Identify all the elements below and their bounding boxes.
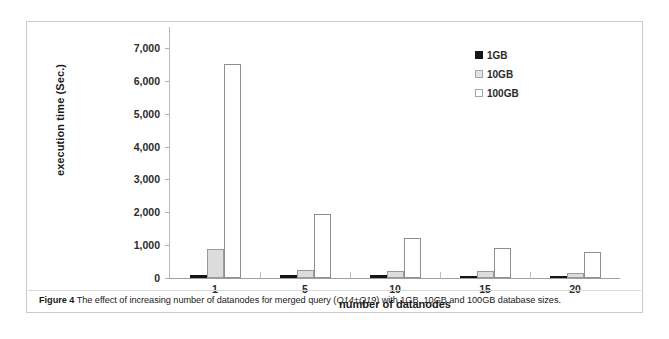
bar-1gb-10	[370, 275, 387, 278]
legend-item-10gb[interactable]: 10GB	[475, 66, 595, 82]
y-axis-tick-mark	[165, 147, 169, 148]
y-axis-tick-label: 2,000	[114, 206, 160, 218]
legend-item-1gb[interactable]: 1GB	[475, 47, 595, 63]
bar-group	[170, 22, 260, 278]
legend-item-label: 1GB	[487, 50, 508, 61]
y-axis-tick-mark	[165, 245, 169, 246]
bar-10gb-20	[567, 273, 584, 278]
bar-group-bars	[170, 22, 260, 278]
bar-100gb-10	[404, 238, 421, 278]
bar-100gb-5	[314, 214, 331, 278]
caption-text-part1: The effect of increasing number of datan…	[74, 295, 336, 305]
y-axis-tick-mark	[165, 212, 169, 213]
bar-group	[350, 22, 440, 278]
chart-legend: 1GB10GB100GB	[475, 47, 595, 104]
bar-1gb-20	[550, 276, 567, 278]
bar-1gb-15	[460, 276, 477, 278]
bar-10gb-15	[477, 271, 494, 278]
y-axis-tick-label: 6,000	[114, 75, 160, 87]
bar-group	[260, 22, 350, 278]
bar-group-bars	[350, 22, 440, 278]
bar-100gb-15	[494, 248, 511, 278]
caption-text-part2: ) with 1GB, 10GB and 100GB database size…	[376, 295, 561, 305]
bar-10gb-5	[297, 270, 314, 278]
y-axis-tick-label: 5,000	[114, 108, 160, 120]
y-axis-tick-mark	[165, 179, 169, 180]
legend-item-label: 100GB	[487, 88, 519, 99]
bar-group-bars	[260, 22, 350, 278]
y-axis-tick-mark	[165, 48, 169, 49]
white-square-icon	[475, 89, 483, 97]
figure-container: execution time (Sec.) 01,0002,0003,0004,…	[26, 21, 643, 313]
y-axis-title: execution time (Sec.)	[54, 40, 66, 200]
y-axis-tick-mark	[165, 81, 169, 82]
y-axis-tick-labels: 01,0002,0003,0004,0005,0006,0007,000	[114, 22, 160, 278]
y-axis-tick-label: 0	[114, 272, 160, 284]
y-axis-tick-mark	[165, 114, 169, 115]
light-gray-square-icon	[475, 70, 483, 78]
figure-caption: Figure 4 The effect of increasing number…	[39, 294, 631, 307]
legend-item-label: 10GB	[487, 69, 513, 80]
x-axis-line	[169, 278, 620, 279]
bar-100gb-1	[224, 64, 241, 278]
chart-plot-region: execution time (Sec.) 01,0002,0003,0004,…	[27, 22, 642, 278]
filled-black-square-icon	[475, 51, 483, 59]
caption-figure-number: Figure 4	[39, 295, 74, 305]
bar-1gb-5	[280, 275, 297, 278]
bar-10gb-10	[387, 271, 404, 278]
bar-1gb-1	[190, 275, 207, 278]
bar-10gb-1	[207, 249, 224, 278]
y-axis-tick-label: 1,000	[114, 239, 160, 251]
y-axis-tick-label: 3,000	[114, 173, 160, 185]
bar-100gb-20	[584, 252, 601, 278]
y-axis-tick-mark	[165, 278, 169, 279]
caption-divider	[28, 290, 641, 291]
caption-query-label: Q14+Q19	[336, 295, 376, 305]
y-axis-tick-label: 4,000	[114, 141, 160, 153]
legend-item-100gb[interactable]: 100GB	[475, 85, 595, 101]
y-axis-tick-label: 7,000	[114, 42, 160, 54]
